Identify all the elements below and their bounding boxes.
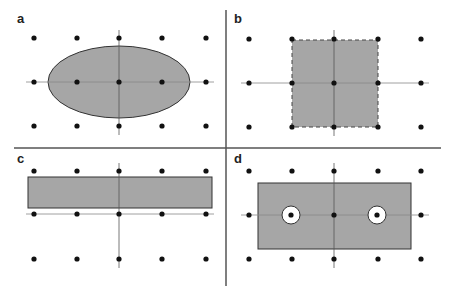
panel-label-a: a <box>17 11 25 26</box>
panel-label-c: c <box>17 151 24 166</box>
panel-label-b: b <box>234 11 242 26</box>
panel-b: b <box>234 11 429 136</box>
lattice-figure: a b c d <box>0 0 454 297</box>
rectangle-shape <box>28 177 212 208</box>
panel-d: d <box>234 151 429 268</box>
panel-a: a <box>17 11 214 135</box>
panel-label-d: d <box>234 151 242 166</box>
panel-c: c <box>17 151 214 268</box>
